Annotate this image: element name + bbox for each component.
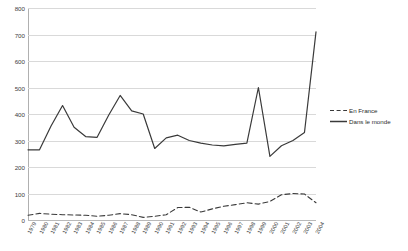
y-tick-200: 200 xyxy=(15,164,25,171)
legend-dashed-swatch-icon xyxy=(330,107,347,114)
x-tick-1999: 1999 xyxy=(257,221,268,235)
x-tick-1992: 1992 xyxy=(176,221,187,235)
x-tick-1979: 1979 xyxy=(26,221,37,235)
x-tick-1991: 1991 xyxy=(164,221,175,235)
y-tick-400: 400 xyxy=(15,111,25,118)
x-tick-2000: 2000 xyxy=(268,221,279,235)
x-tick-1981: 1981 xyxy=(49,221,60,235)
x-tick-1983: 1983 xyxy=(72,221,83,235)
y-tick-600: 600 xyxy=(15,58,25,65)
chart-legend: En France Dans le monde xyxy=(330,106,406,128)
x-tick-2003: 2003 xyxy=(303,221,314,235)
x-tick-1997: 1997 xyxy=(234,221,245,235)
x-tick-1984: 1984 xyxy=(84,221,95,235)
y-tick-700: 700 xyxy=(15,31,25,38)
x-tick-1995: 1995 xyxy=(210,221,221,235)
x-axis-labels: 1979198019811982198319841985198619871988… xyxy=(28,221,316,251)
y-tick-0: 0 xyxy=(22,217,25,224)
x-tick-1986: 1986 xyxy=(107,221,118,235)
x-tick-1988: 1988 xyxy=(130,221,141,235)
x-tick-2004: 2004 xyxy=(314,221,325,235)
legend-label-dans-le-monde: Dans le monde xyxy=(349,118,391,125)
series-lines xyxy=(28,8,316,220)
y-tick-800: 800 xyxy=(15,5,25,12)
x-tick-1996: 1996 xyxy=(222,221,233,235)
y-tick-100: 100 xyxy=(15,190,25,197)
plot-area xyxy=(28,8,316,220)
x-tick-1990: 1990 xyxy=(153,221,164,235)
x-tick-2002: 2002 xyxy=(291,221,302,235)
line-chart: 0100200300400500600700800 19791980198119… xyxy=(0,0,408,251)
x-tick-1994: 1994 xyxy=(199,221,210,235)
y-axis-labels: 0100200300400500600700800 xyxy=(0,8,28,220)
x-tick-1993: 1993 xyxy=(187,221,198,235)
y-tick-500: 500 xyxy=(15,84,25,91)
x-tick-2001: 2001 xyxy=(280,221,291,235)
legend-label-en-france: En France xyxy=(349,107,378,114)
x-tick-1985: 1985 xyxy=(95,221,106,235)
legend-item-en-france: En France xyxy=(330,106,406,115)
legend-solid-swatch-icon xyxy=(330,118,347,125)
x-tick-1987: 1987 xyxy=(118,221,129,235)
series-line-en-france xyxy=(28,194,316,218)
x-tick-1998: 1998 xyxy=(245,221,256,235)
x-tick-1982: 1982 xyxy=(61,221,72,235)
x-tick-1989: 1989 xyxy=(141,221,152,235)
x-tick-1980: 1980 xyxy=(38,221,49,235)
series-line-dans-le-monde xyxy=(28,32,316,157)
y-tick-300: 300 xyxy=(15,137,25,144)
legend-item-dans-le-monde: Dans le monde xyxy=(330,117,406,126)
